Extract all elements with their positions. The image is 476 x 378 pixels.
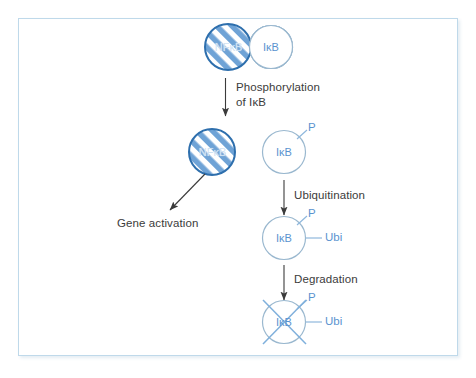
step-label-ubiquitination: Ubiquitination: [294, 188, 365, 202]
node-label-ikb-degraded: IκB: [270, 316, 298, 328]
phosphate-label-1: P: [308, 121, 316, 134]
diagram-canvas: NFκB IκB NFκB IκB IκB IκB P P P Ubi Ubi …: [0, 0, 476, 378]
node-label-ikb-p: IκB: [270, 146, 298, 158]
step-label-phosphorylation-line1: Phosphorylation: [236, 80, 320, 94]
node-label-ikb-p-ubi: IκB: [270, 232, 298, 244]
phosphate-label-2: P: [308, 207, 316, 220]
ubiquitin-label-2: Ubi: [325, 315, 342, 328]
node-label-complex-nfkb: NFκB: [206, 41, 251, 53]
pathway-svg: [0, 0, 476, 378]
phosphate-link-1: [297, 130, 307, 139]
phosphate-link-2: [297, 216, 307, 225]
arrow-gene-activation: [170, 174, 205, 210]
node-label-free-nfkb: NFκB: [190, 146, 235, 158]
step-label-phosphorylation-line2: of IκB: [236, 95, 266, 109]
outcome-label-gene-activation: Gene activation: [117, 216, 198, 230]
ubiquitin-label-1: Ubi: [325, 231, 342, 244]
phosphate-label-3: P: [308, 291, 316, 304]
node-label-complex-ikb: IκB: [257, 41, 285, 53]
step-label-degradation: Degradation: [294, 272, 358, 286]
